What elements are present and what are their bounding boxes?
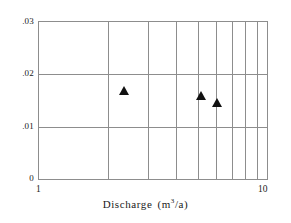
x-tick-label-min: 1 [36,184,41,194]
data-point-marker [119,86,129,95]
x-gridline [245,22,246,179]
x-gridline [232,22,233,179]
plot-area [38,21,268,180]
y-tick-label-0: 0 [29,174,34,183]
x-gridline [176,22,177,179]
x-gridline [198,22,199,179]
x-gridline [257,22,258,179]
data-point-marker [196,91,206,100]
y-tick-label-002: .02 [22,69,34,78]
y-tick-label-003: .03 [22,17,34,26]
y-axis-tick-labels: .03 .02 .01 0 [0,0,34,223]
data-point-marker [212,98,222,107]
x-gridline [148,22,149,179]
y-tick-label-001: .01 [22,122,34,131]
x-axis-title-text: Discharge [103,198,153,210]
y-gridline [39,74,267,75]
x-gridline [108,22,109,179]
x-axis-unit-prefix: (m [157,198,170,210]
chart-figure: .03 .02 .01 0 1 10 Discharge(m3/a) [0,0,291,223]
x-tick-label-max: 10 [258,184,268,194]
x-axis-title: Discharge(m3/a) [0,198,291,210]
y-gridline [39,127,267,128]
x-axis-unit: (m3/a) [157,198,188,210]
x-axis-unit-suffix: /a) [175,198,188,210]
